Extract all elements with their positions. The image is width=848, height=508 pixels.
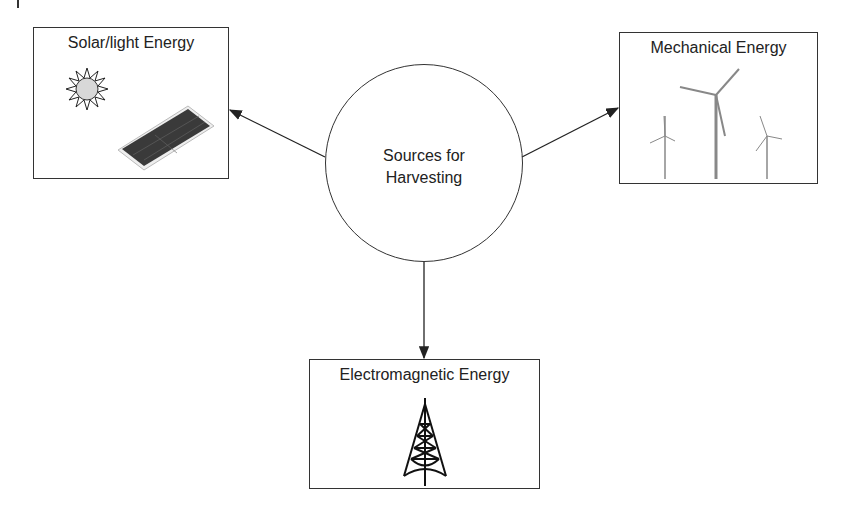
center-label: Sources for Harvesting (326, 145, 522, 189)
arrow-to-solar (230, 110, 325, 157)
sources-circle: Sources for Harvesting (325, 64, 523, 262)
radio-tower-icon (400, 396, 450, 488)
solar-energy-title: Solar/light Energy (34, 34, 228, 52)
wind-turbine-icon (640, 61, 810, 183)
center-label-line1: Sources for (326, 145, 522, 167)
solar-panel-icon (116, 98, 216, 173)
electromagnetic-energy-title: Electromagnetic Energy (310, 366, 539, 384)
center-label-line2: Harvesting (326, 167, 522, 189)
solar-energy-box: Solar/light Energy (33, 27, 229, 179)
arrow-to-mechanical (522, 108, 618, 157)
mechanical-energy-title: Mechanical Energy (620, 39, 817, 57)
mechanical-energy-box: Mechanical Energy (619, 32, 818, 184)
sun-icon (64, 66, 110, 112)
electromagnetic-energy-box: Electromagnetic Energy (309, 359, 540, 489)
